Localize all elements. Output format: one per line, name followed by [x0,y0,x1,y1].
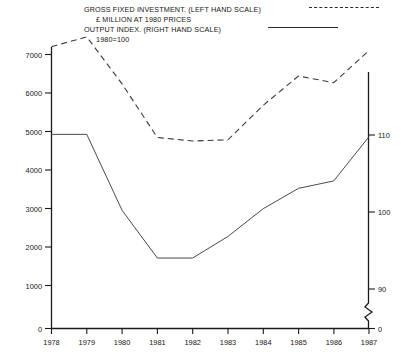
left-tick-label-0: 0 [38,325,42,334]
series-line-gross-fixed-investment [52,37,370,141]
x-tick-label-1982: 1982 [184,338,200,347]
left-tick-label-3000: 3000 [26,205,42,214]
x-tick-label-1984: 1984 [255,338,271,347]
right-tick-label-100: 100 [378,208,390,217]
x-tick-label-1980: 1980 [114,338,130,347]
left-tick-label-4000: 4000 [26,166,42,175]
chart-plot-area: 7000 6000 5000 4000 3000 2000 1000 0 110… [0,0,401,355]
left-tick-label-2000: 2000 [26,243,42,252]
right-tick-label-0: 0 [378,325,382,334]
left-axis-ticks [45,55,51,329]
x-tick-label-1978: 1978 [43,338,59,347]
right-tick-label-90: 90 [378,285,386,294]
chart-container: GROSS FIXED INVESTMENT. (LEFT HAND SCALE… [0,0,401,355]
x-axis-tick-labels: 1978 1979 1980 1981 1982 1983 1984 1985 … [43,338,377,347]
x-tick-label-1983: 1983 [220,338,236,347]
series-line-output-index [52,134,370,258]
left-axis-tick-labels: 7000 6000 5000 4000 3000 2000 1000 0 [26,51,42,334]
x-tick-label-1985: 1985 [290,338,306,347]
right-axis-tick-labels: 110 100 90 0 [378,131,390,334]
x-tick-label-1986: 1986 [326,338,342,347]
right-tick-label-110: 110 [378,131,390,140]
x-tick-label-1987: 1987 [361,338,377,347]
left-tick-label-5000: 5000 [26,128,42,137]
right-axis-line [365,72,372,329]
right-axis-ticks [369,135,375,329]
x-tick-label-1981: 1981 [149,338,165,347]
x-tick-label-1979: 1979 [79,338,95,347]
left-tick-label-7000: 7000 [26,51,42,60]
left-tick-label-6000: 6000 [26,89,42,98]
left-tick-label-1000: 1000 [26,282,42,291]
